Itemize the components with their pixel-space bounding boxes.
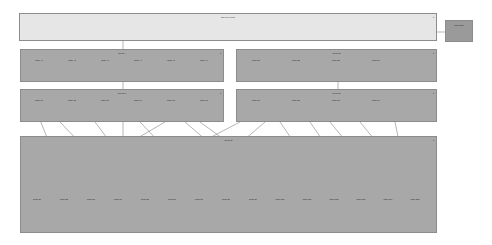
child-node[interactable]: Node E1 [25, 198, 49, 201]
group-title: Group E [21, 139, 436, 141]
child-node[interactable]: Node C5 [157, 99, 185, 102]
child-node[interactable]: Node E3 [79, 198, 103, 201]
group-e[interactable]: Group E ▪ Node E1 Node E2 Node E3 Node E… [20, 136, 437, 233]
child-node[interactable]: Node A4 [124, 59, 152, 62]
top-node[interactable]: Top-level node ▪ [19, 13, 437, 41]
group-a[interactable]: Group A ▪ Node A1 Node A2 Node A3 Node A… [20, 49, 224, 82]
child-node[interactable]: Node B1 [241, 59, 271, 62]
child-node[interactable]: Node E12 [322, 198, 346, 201]
child-node[interactable]: Node E8 [214, 198, 238, 201]
group-title: Group D [237, 92, 436, 94]
top-node-title: Top-level node [20, 16, 436, 18]
child-node[interactable]: Node A3 [91, 59, 119, 62]
group-d[interactable]: Group D ▪ Node D1 Node D2 Node D3 Node D… [236, 89, 437, 122]
child-node[interactable]: Node E6 [160, 198, 184, 201]
expand-icon[interactable]: ▪ [220, 91, 221, 95]
group-title: Group B [237, 52, 436, 54]
child-node[interactable]: Node C4 [124, 99, 152, 102]
side-node[interactable]: Side node [445, 20, 473, 42]
child-node[interactable]: Node D2 [281, 99, 311, 102]
child-node[interactable]: Node C3 [91, 99, 119, 102]
child-node[interactable]: Node A2 [58, 59, 86, 62]
child-node[interactable]: Node B2 [281, 59, 311, 62]
child-node[interactable]: Node D3 [321, 99, 351, 102]
child-node[interactable]: Node E10 [268, 198, 292, 201]
side-node-title: Side node [446, 24, 472, 27]
child-node[interactable]: Node C6 [190, 99, 218, 102]
child-node[interactable]: Node A1 [25, 59, 53, 62]
child-node[interactable]: Node B3 [321, 59, 351, 62]
child-node[interactable]: Node B4 [361, 59, 391, 62]
child-node[interactable]: Node E14 [376, 198, 400, 201]
child-node[interactable]: Node E2 [52, 198, 76, 201]
child-node[interactable]: Node C2 [58, 99, 86, 102]
child-node[interactable]: Node C1 [25, 99, 53, 102]
child-node[interactable]: Node E4 [106, 198, 130, 201]
child-node[interactable]: Node E13 [349, 198, 373, 201]
expand-icon[interactable]: ▪ [433, 138, 434, 142]
child-node[interactable]: Node E15 [403, 198, 427, 201]
group-c[interactable]: Group C ▪ Node C1 Node C2 Node C3 Node C… [20, 89, 224, 122]
group-title: Group C [21, 92, 223, 94]
expand-icon[interactable]: ▪ [220, 51, 221, 55]
expand-icon[interactable]: ▪ [433, 15, 434, 19]
group-title: Group A [21, 52, 223, 54]
child-node[interactable]: Node E5 [133, 198, 157, 201]
child-node[interactable]: Node D4 [361, 99, 391, 102]
child-node[interactable]: Node A5 [157, 59, 185, 62]
group-b[interactable]: Group B ▪ Node B1 Node B2 Node B3 Node B… [236, 49, 437, 82]
child-node[interactable]: Node E7 [187, 198, 211, 201]
expand-icon[interactable]: ▪ [433, 91, 434, 95]
child-node[interactable]: Node E9 [241, 198, 265, 201]
expand-icon[interactable]: ▪ [433, 51, 434, 55]
child-node[interactable]: Node A6 [190, 59, 218, 62]
child-node[interactable]: Node D1 [241, 99, 271, 102]
child-node[interactable]: Node E11 [295, 198, 319, 201]
